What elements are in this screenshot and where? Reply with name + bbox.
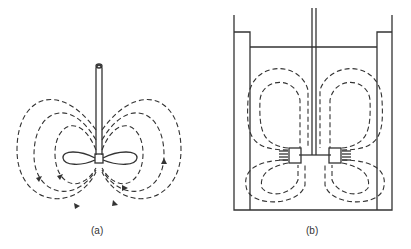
flow-arrow-icon xyxy=(74,203,80,209)
propeller-blade-left xyxy=(63,152,95,164)
flow-pattern-diagram xyxy=(0,0,411,249)
panel-a-propeller xyxy=(17,64,181,209)
baffle-right xyxy=(377,32,392,210)
shaft xyxy=(96,65,102,155)
flow-arrow-icon xyxy=(161,158,167,164)
panel-b-label: (b) xyxy=(306,225,318,236)
impeller-hub xyxy=(95,154,103,163)
propeller-blade-right xyxy=(103,152,137,164)
flow-arrow-icon xyxy=(112,200,118,206)
panel-a-label: (a) xyxy=(91,225,103,236)
panel-b-turbine-tank xyxy=(234,8,392,210)
